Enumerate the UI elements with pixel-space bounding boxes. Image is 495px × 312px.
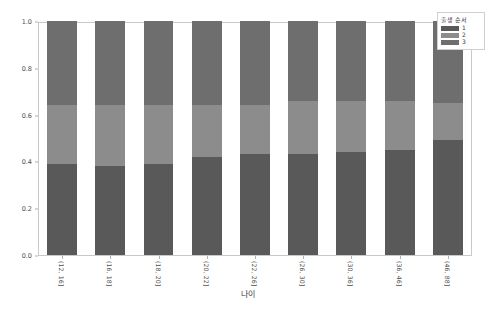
y-tick-label: 1.0 bbox=[22, 18, 32, 26]
x-tick-mark bbox=[400, 256, 401, 259]
bar-stack[interactable] bbox=[144, 21, 174, 255]
x-tick-label: (26, 30] bbox=[299, 261, 306, 286]
bar-segment[interactable] bbox=[95, 105, 125, 166]
bar-segment[interactable] bbox=[47, 21, 77, 105]
y-tick-label: 0.6 bbox=[22, 112, 32, 120]
bar-segment[interactable] bbox=[144, 21, 174, 105]
bar-segment[interactable] bbox=[336, 101, 366, 152]
bar-segment[interactable] bbox=[240, 105, 270, 154]
bar-segment[interactable] bbox=[192, 157, 222, 255]
legend-items: 123 bbox=[441, 25, 481, 45]
plot-area bbox=[38, 22, 472, 256]
bar-segment[interactable] bbox=[240, 154, 270, 255]
y-tick-label: 0.2 bbox=[22, 205, 32, 213]
bar-stack[interactable] bbox=[433, 21, 463, 255]
bar-segment[interactable] bbox=[385, 101, 415, 150]
legend-swatch bbox=[441, 26, 459, 31]
bar-segment[interactable] bbox=[240, 21, 270, 105]
x-tick-mark bbox=[303, 256, 304, 259]
bar-segment[interactable] bbox=[385, 21, 415, 101]
bar-stack[interactable] bbox=[288, 21, 318, 255]
bar-stack[interactable] bbox=[385, 21, 415, 255]
x-tick-label: (16, 18] bbox=[106, 261, 113, 286]
chart-figure: 0.00.20.40.60.81.0 (12, 16](16, 18](18, … bbox=[0, 0, 495, 312]
legend: 출생 순서 123 bbox=[437, 12, 485, 50]
y-axis: 0.00.20.40.60.81.0 bbox=[0, 0, 38, 312]
bar-segment[interactable] bbox=[433, 140, 463, 255]
x-tick-label: (22, 26] bbox=[251, 261, 258, 286]
bar-stack[interactable] bbox=[192, 21, 222, 255]
x-tick-label: (20, 22] bbox=[203, 261, 210, 286]
bar-segment[interactable] bbox=[336, 152, 366, 255]
bar-segment[interactable] bbox=[95, 21, 125, 105]
x-tick-label: (12, 16] bbox=[58, 261, 65, 286]
bar-segment[interactable] bbox=[47, 105, 77, 164]
legend-swatch bbox=[441, 33, 459, 38]
bar-stack[interactable] bbox=[240, 21, 270, 255]
x-tick-mark bbox=[448, 256, 449, 259]
x-axis-title: 나이 bbox=[0, 288, 495, 299]
x-tick-label: (18, 20] bbox=[155, 261, 162, 286]
x-tick-label: (30, 36] bbox=[347, 261, 354, 286]
legend-item[interactable]: 2 bbox=[441, 32, 481, 38]
x-tick-mark bbox=[207, 256, 208, 259]
bar-segment[interactable] bbox=[144, 164, 174, 255]
y-tick-label: 0.0 bbox=[22, 252, 32, 260]
bar-segment[interactable] bbox=[47, 164, 77, 255]
bar-stack[interactable] bbox=[336, 21, 366, 255]
bar-segment[interactable] bbox=[144, 105, 174, 164]
bar-stack[interactable] bbox=[95, 21, 125, 255]
legend-swatch bbox=[441, 40, 459, 45]
bar-segment[interactable] bbox=[192, 105, 222, 156]
bar-segment[interactable] bbox=[288, 21, 318, 101]
bar-segment[interactable] bbox=[288, 101, 318, 155]
x-tick-label: (36, 46] bbox=[396, 261, 403, 286]
bar-segment[interactable] bbox=[288, 154, 318, 255]
bar-segment[interactable] bbox=[336, 21, 366, 101]
x-tick-mark bbox=[351, 256, 352, 259]
x-tick-mark bbox=[110, 256, 111, 259]
legend-item[interactable]: 1 bbox=[441, 25, 481, 31]
y-tick-label: 0.4 bbox=[22, 158, 32, 166]
bar-segment[interactable] bbox=[192, 21, 222, 105]
legend-label: 3 bbox=[462, 39, 466, 45]
legend-item[interactable]: 3 bbox=[441, 39, 481, 45]
x-tick-mark bbox=[255, 256, 256, 259]
legend-title: 출생 순서 bbox=[441, 15, 481, 24]
x-tick-mark bbox=[159, 256, 160, 259]
bar-segment[interactable] bbox=[433, 103, 463, 140]
x-tick-label: (46, 88] bbox=[444, 261, 451, 286]
x-tick-mark bbox=[62, 256, 63, 259]
bar-segment[interactable] bbox=[95, 166, 125, 255]
y-tick-label: 0.8 bbox=[22, 65, 32, 73]
bar-segment[interactable] bbox=[385, 150, 415, 255]
bar-stack[interactable] bbox=[47, 21, 77, 255]
